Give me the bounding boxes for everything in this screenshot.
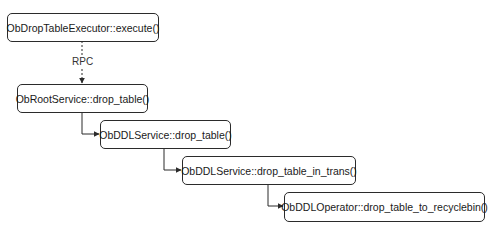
node-ddl-service-drop-table: ObDDLService::drop_table(): [100, 120, 231, 149]
edge-label-rpc: RPC: [71, 56, 94, 67]
node-ddl-operator-drop-table-to-recyclebin: ObDDLOperator::drop_table_to_recyclebin(…: [284, 192, 485, 222]
edge-n3-n4: [164, 149, 181, 170]
node-root-service-drop-table: ObRootService::drop_table(): [17, 84, 148, 113]
node-ddl-service-drop-table-in-trans: ObDDLService::drop_table_in_trans(): [182, 156, 356, 185]
node-drop-table-executor: ObDropTableExecutor::execute(): [7, 13, 159, 42]
edge-n2-n3: [82, 113, 99, 134]
